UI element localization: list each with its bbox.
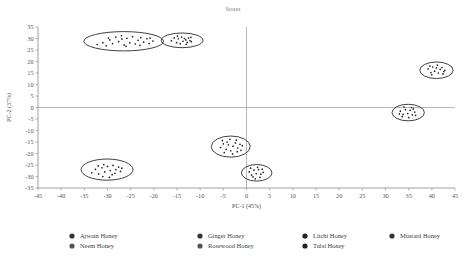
- legend-label[interactable]: Neem Honey: [80, 242, 115, 249]
- data-point: [222, 140, 224, 142]
- data-point: [114, 172, 116, 174]
- data-point: [235, 142, 237, 144]
- x-tick-label: 5: [268, 192, 271, 199]
- data-point: [235, 139, 237, 141]
- data-point: [102, 176, 104, 178]
- y-tick-label: 5: [30, 92, 33, 99]
- data-point: [146, 38, 148, 40]
- data-point: [181, 36, 183, 38]
- data-point: [108, 37, 110, 39]
- data-point: [173, 37, 175, 39]
- data-point: [240, 149, 242, 151]
- data-point: [405, 109, 407, 111]
- data-point: [91, 172, 93, 174]
- data-point: [139, 45, 141, 47]
- data-point: [179, 43, 181, 45]
- data-point: [222, 143, 224, 145]
- y-axis-title: PC-2 (37%): [6, 93, 13, 122]
- data-point: [427, 68, 429, 70]
- data-point: [250, 167, 252, 169]
- cluster-ellipses-layer: [81, 32, 453, 182]
- data-point: [220, 147, 222, 149]
- legend-label[interactable]: Rosewood Honey: [208, 242, 254, 249]
- data-point: [232, 153, 234, 155]
- data-point: [399, 110, 401, 112]
- data-point: [252, 176, 254, 178]
- data-point: [95, 169, 97, 171]
- y-tick-label: 10: [27, 81, 33, 88]
- data-point: [120, 171, 122, 173]
- x-tick-label: -20: [150, 192, 158, 199]
- x-tick-label: -35: [80, 192, 88, 199]
- data-point: [104, 171, 106, 173]
- x-tick-label: 0: [245, 192, 248, 199]
- legend-marker[interactable]: [69, 243, 74, 248]
- legend-label[interactable]: Ajwain Honey: [80, 232, 118, 239]
- data-point: [185, 43, 187, 45]
- scatter-plot-canvas: -45-40-35-30-25-20-15-10-505101520253035…: [0, 0, 466, 261]
- data-point: [226, 141, 228, 143]
- legend-label[interactable]: Tulsi Honey: [313, 242, 345, 249]
- legend-label[interactable]: Litchi Honey: [313, 232, 348, 239]
- zero-lines-layer: [38, 27, 455, 188]
- legend-label[interactable]: Ginger Honey: [208, 232, 245, 239]
- legend-marker[interactable]: [69, 233, 74, 238]
- y-tick-label: -30: [25, 173, 33, 180]
- data-point: [442, 73, 444, 75]
- y-tick-label: 0: [30, 104, 33, 111]
- data-point: [262, 172, 264, 174]
- data-point: [258, 169, 260, 171]
- legend-marker[interactable]: [197, 233, 202, 238]
- data-point: [191, 41, 193, 43]
- legend-layer: Ajwain HoneyNeem HoneyGinger HoneyRosewo…: [69, 232, 440, 249]
- legend-marker[interactable]: [389, 233, 394, 238]
- legend-label[interactable]: Mustard Honey: [400, 232, 441, 239]
- legend-marker[interactable]: [197, 243, 202, 248]
- data-point: [401, 116, 403, 118]
- x-tick-label: 35: [406, 192, 412, 199]
- data-point: [143, 41, 145, 43]
- data-point: [432, 66, 434, 68]
- data-point: [439, 68, 441, 70]
- y-tick-label: -35: [25, 184, 33, 191]
- cluster-ellipse: [420, 62, 453, 79]
- legend-marker[interactable]: [302, 243, 307, 248]
- data-point: [109, 39, 111, 41]
- y-tick-label: 15: [27, 69, 33, 76]
- x-tick-label: 20: [336, 192, 342, 199]
- y-tick-label: -25: [25, 161, 33, 168]
- data-point: [103, 164, 105, 166]
- cluster-ellipse: [392, 104, 424, 121]
- y-tick-label: 20: [27, 58, 33, 65]
- pca-scores-figure: Scores -45-40-35-30-25-20-15-10-50510152…: [0, 0, 466, 261]
- data-point: [436, 67, 438, 69]
- data-point: [441, 67, 443, 69]
- data-point: [239, 143, 241, 145]
- data-point: [437, 64, 439, 66]
- data-point: [232, 145, 234, 147]
- data-point: [171, 40, 173, 42]
- cluster-ellipse: [241, 165, 272, 182]
- x-tick-label: -10: [196, 192, 204, 199]
- legend-marker[interactable]: [302, 233, 307, 238]
- data-point: [140, 37, 142, 39]
- cluster-ellipse: [81, 159, 133, 180]
- data-point: [408, 117, 410, 119]
- data-point: [431, 74, 433, 76]
- chart-title: Scores: [0, 6, 466, 12]
- data-point: [412, 114, 414, 116]
- x-tick-label: 45: [452, 192, 458, 199]
- data-point: [112, 43, 114, 45]
- cluster-ellipse: [161, 33, 203, 48]
- data-point: [134, 43, 136, 45]
- y-tick-label: 30: [27, 35, 33, 42]
- data-point: [118, 41, 120, 43]
- data-point: [109, 170, 111, 172]
- y-tick-label: -15: [25, 138, 33, 145]
- data-point: [177, 35, 179, 37]
- data-point: [253, 169, 255, 171]
- data-point: [403, 106, 405, 108]
- x-tick-label: 40: [429, 192, 435, 199]
- data-point: [414, 111, 416, 113]
- cluster-ellipse: [211, 136, 250, 157]
